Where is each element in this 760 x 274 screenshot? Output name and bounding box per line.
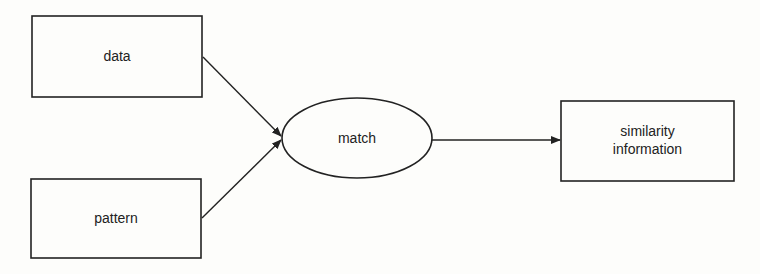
edge-pattern-to-match	[202, 140, 281, 218]
data-label: data	[32, 48, 202, 65]
similarity-label-line2: information	[561, 141, 734, 158]
similarity-label-line1: similarity	[561, 123, 734, 140]
match-label: match	[282, 130, 432, 147]
edge-data-to-match	[203, 57, 281, 136]
pattern-label: pattern	[31, 210, 201, 227]
